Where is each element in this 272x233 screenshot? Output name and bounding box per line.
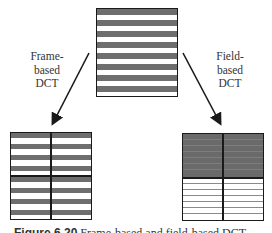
field-dct-label: Field- based DCT (205, 50, 255, 91)
frame-dct-block-grid (10, 132, 92, 220)
caption-text: Frame-based and field-based DCT (80, 226, 246, 233)
source-macroblock (96, 8, 178, 97)
figure-number: Figure 6.20 (14, 226, 77, 233)
field-dct-block-grid (182, 133, 264, 221)
frame-dct-label: Frame- based DCT (22, 50, 72, 91)
figure-caption: Figure 6.20 Frame-based and field-based … (14, 226, 246, 233)
